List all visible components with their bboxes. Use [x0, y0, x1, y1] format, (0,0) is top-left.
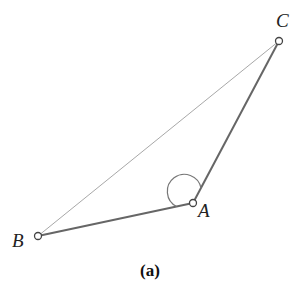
- label-C: C: [276, 10, 289, 31]
- point-A[interactable]: [190, 200, 197, 207]
- triangle-diagram: A B C (a): [0, 0, 307, 296]
- segment-BA: [38, 203, 193, 236]
- segment-BC: [38, 41, 279, 236]
- figure-caption: (a): [140, 261, 160, 280]
- diagram-canvas: A B C (a): [0, 0, 307, 296]
- label-B: B: [12, 230, 24, 251]
- label-A: A: [196, 200, 210, 221]
- point-C[interactable]: [276, 38, 283, 45]
- segment-AC: [193, 41, 279, 203]
- point-B[interactable]: [35, 233, 42, 240]
